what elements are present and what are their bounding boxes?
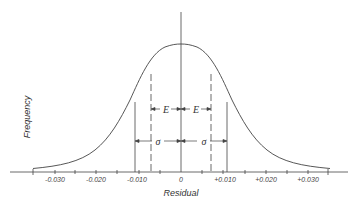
x-axis-title: Residual xyxy=(163,188,199,198)
e-right-label: E xyxy=(192,104,199,115)
normal-curve xyxy=(33,44,330,169)
tick-label: +0.020 xyxy=(255,176,277,183)
e-left-label: E xyxy=(162,104,169,115)
sigma-left-label: σ xyxy=(156,136,162,147)
normal-distribution-diagram: E E σ σ -0.030 -0.020 -0.010 0 +0.010 +0… xyxy=(0,0,360,204)
tick-label: -0.030 xyxy=(45,176,65,183)
tick-label: -0.010 xyxy=(127,176,147,183)
y-axis-title: Frequency xyxy=(22,95,32,138)
tick-label: 0 xyxy=(179,176,183,183)
tick-label: +0.010 xyxy=(214,176,236,183)
tick-label: +0.030 xyxy=(297,176,319,183)
tick-label: -0.020 xyxy=(86,176,106,183)
sigma-right-label: σ xyxy=(202,136,208,147)
